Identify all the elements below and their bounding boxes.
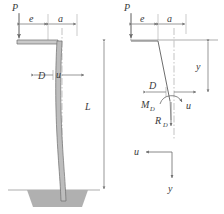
left-view-group: e a P D u xyxy=(8,2,104,207)
right-label-P: P xyxy=(123,2,130,13)
right-label-R: R xyxy=(154,115,161,126)
left-load-arrow: P xyxy=(11,2,19,38)
right-dim-e: e xyxy=(132,13,157,24)
left-label-e: e xyxy=(29,13,34,24)
right-view-group: e a P D u M D xyxy=(123,2,218,194)
left-label-u: u xyxy=(56,69,61,80)
left-witness-lines xyxy=(19,14,77,40)
right-label-M-sub: D xyxy=(149,105,155,112)
right-label-e: e xyxy=(140,13,145,24)
left-dim-L: L xyxy=(84,42,104,189)
right-label-y: y xyxy=(195,61,201,72)
right-label-M: M xyxy=(140,99,150,110)
right-load-arrow: P xyxy=(123,2,131,38)
left-arm xyxy=(17,40,58,44)
left-pole xyxy=(56,41,66,201)
left-label-P: P xyxy=(11,2,18,13)
diagram-svg: e a P D u xyxy=(0,0,224,214)
figure-canvas: e a P D u xyxy=(0,0,224,214)
left-label-L: L xyxy=(84,101,91,112)
left-label-D: D xyxy=(37,70,46,81)
axis-label-u: u xyxy=(134,146,139,157)
right-label-D: D xyxy=(148,80,157,91)
left-dim-D-u: D u xyxy=(34,69,84,81)
right-label-R-sub: D xyxy=(162,121,168,128)
axis-label-y: y xyxy=(167,183,173,194)
right-reaction-arrow: R D xyxy=(154,102,171,128)
left-foundation xyxy=(27,190,88,207)
right-coordinate-axes: u y xyxy=(134,146,173,194)
right-dim-a: a xyxy=(159,13,185,24)
right-label-u: u xyxy=(186,100,191,111)
right-dim-y: y xyxy=(195,42,208,92)
right-moment-arc: M D xyxy=(140,96,182,112)
left-label-a: a xyxy=(58,13,63,24)
left-dim-a: a xyxy=(49,13,76,24)
right-label-a: a xyxy=(167,13,172,24)
left-dim-e: e xyxy=(20,13,47,24)
